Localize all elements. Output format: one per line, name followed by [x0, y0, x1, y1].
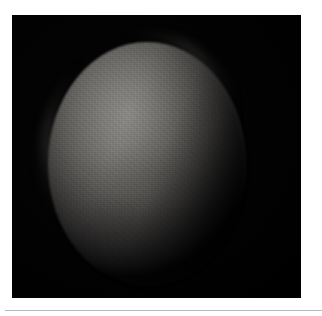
planetary-disk	[48, 42, 246, 286]
page-canvas	[0, 0, 322, 316]
horizontal-rule	[5, 310, 322, 311]
image-plate	[12, 15, 301, 298]
planetary-disk-group	[12, 15, 301, 298]
